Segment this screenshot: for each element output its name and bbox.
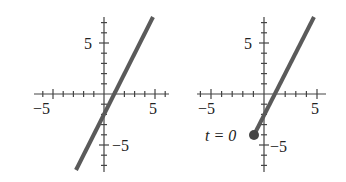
- t0-label: t = 0: [205, 127, 236, 144]
- right-axes: [197, 17, 326, 172]
- right-plot: −5 5 5 −5 t = 0: [197, 17, 326, 172]
- right-ray: [254, 17, 314, 135]
- left-yneg-label: −5: [112, 137, 129, 154]
- right-xpos-label: 5: [311, 100, 319, 117]
- figure: −5 5 5 −5 −5 5 5 −5 t = 0: [0, 0, 346, 182]
- left-plot: −5 5 5 −5: [33, 17, 169, 172]
- left-ypos-label: 5: [84, 35, 92, 52]
- start-point-marker: [249, 130, 259, 140]
- left-xpos-label: 5: [149, 100, 157, 117]
- right-xneg-label: −5: [198, 100, 215, 117]
- right-yneg-label: −5: [270, 138, 287, 155]
- left-xneg-label: −5: [33, 100, 50, 117]
- left-axes: [34, 17, 169, 172]
- right-ypos-label: 5: [244, 35, 252, 52]
